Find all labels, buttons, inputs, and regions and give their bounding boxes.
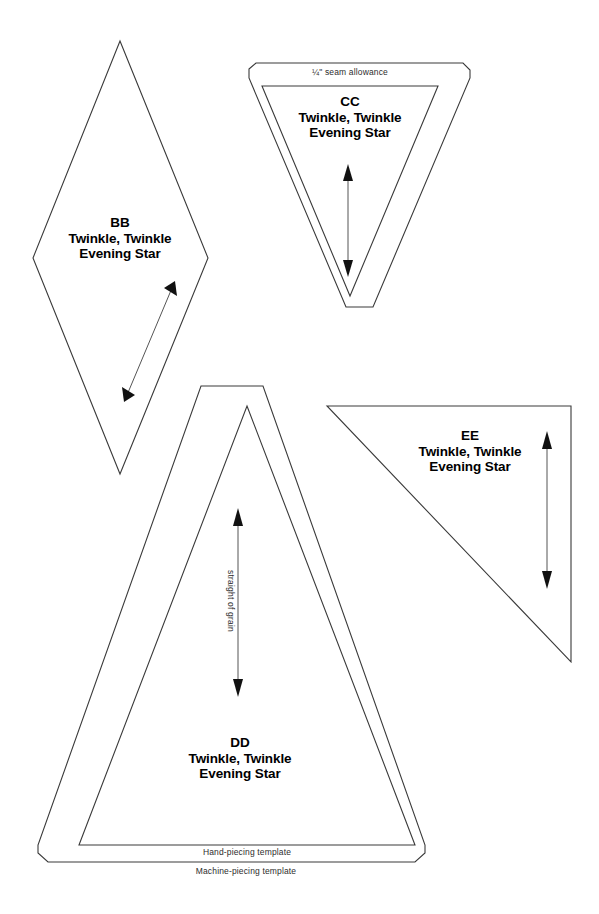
template-bb-label: BB Twinkle, Twinkle Evening Star (40, 215, 200, 262)
template-cc-code: CC (270, 94, 430, 110)
cc-grain-arrow-head-up (343, 164, 353, 181)
template-dd-label: DD Twinkle, Twinkle Evening Star (155, 735, 325, 782)
template-dd-pattern-line1: Twinkle, Twinkle (155, 751, 325, 767)
template-ee-pattern-line1: Twinkle, Twinkle (390, 444, 550, 460)
bb-grain-arrow-line (127, 288, 172, 395)
ee-grain-arrow-head-down (542, 571, 552, 589)
bb-grain-arrow-head-up (164, 281, 177, 296)
dd-grain-arrow-head-down (233, 679, 243, 697)
cc-grain-arrow-head-down (343, 260, 353, 277)
template-bb-pattern-line1: Twinkle, Twinkle (40, 231, 200, 247)
template-ee-pattern-line2: Evening Star (390, 459, 550, 475)
template-dd-code: DD (155, 735, 325, 751)
hand-piecing-note: Hand-piecing template (147, 847, 347, 857)
straight-of-grain-note: straight of grain (226, 570, 236, 632)
machine-piecing-note: Machine-piecing template (131, 866, 361, 876)
template-cc-label: CC Twinkle, Twinkle Evening Star (270, 94, 430, 141)
template-ee-code: EE (390, 428, 550, 444)
template-cc-pattern-line2: Evening Star (270, 125, 430, 141)
template-cc-pattern-line1: Twinkle, Twinkle (270, 110, 430, 126)
dd-grain-arrow-head-up (233, 508, 243, 526)
template-bb-pattern-line2: Evening Star (40, 246, 200, 262)
template-ee-label: EE Twinkle, Twinkle Evening Star (390, 428, 550, 475)
bb-grain-arrow-head-down (122, 387, 135, 402)
template-sheet: BB Twinkle, Twinkle Evening Star ¼" seam… (0, 0, 599, 914)
template-bb-code: BB (40, 215, 200, 231)
seam-allowance-note: ¼" seam allowance (250, 67, 450, 77)
template-dd-pattern-line2: Evening Star (155, 766, 325, 782)
